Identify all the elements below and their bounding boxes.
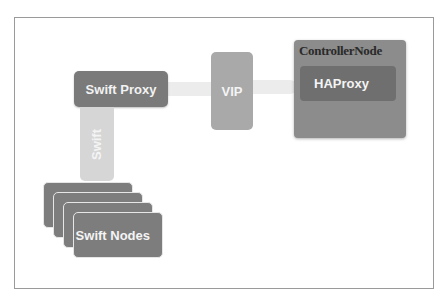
- swift-node-card: Swift Nodes: [73, 212, 163, 258]
- haproxy-label: HAProxy: [314, 76, 369, 91]
- swift-nodes-label: Swift Nodes: [76, 228, 150, 243]
- swift-proxy-box: Swift Proxy: [74, 71, 168, 107]
- vip-box: VIP: [211, 52, 253, 130]
- controller-node-title: ControllerNode: [299, 43, 382, 59]
- swift-proxy-label: Swift Proxy: [86, 82, 157, 97]
- vip-haproxy-connector: [253, 80, 297, 94]
- proxy-vip-connector: [168, 82, 211, 96]
- swift-link-connector: Swift: [80, 107, 114, 181]
- vip-label: VIP: [222, 84, 243, 99]
- controller-node-box: ControllerNode HAProxy: [294, 40, 406, 138]
- swift-link-label: Swift: [90, 128, 105, 159]
- haproxy-box: HAProxy: [300, 66, 396, 101]
